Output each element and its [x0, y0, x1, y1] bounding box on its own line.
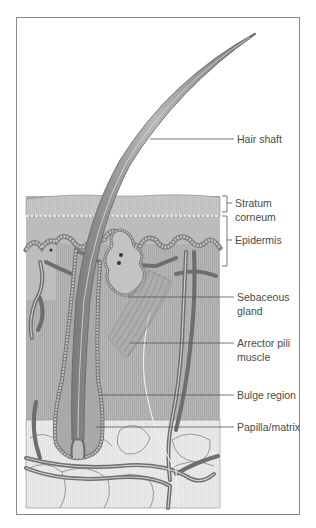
label-epidermis: Epidermis — [235, 234, 282, 246]
gland-nucleus — [117, 261, 121, 265]
label-sebaceous-gland: Sebaceous gland — [237, 291, 292, 317]
gland-nucleus — [119, 253, 123, 257]
bracket-epidermis — [222, 216, 227, 266]
label-bulge-region: Bulge region — [237, 389, 296, 401]
bracket-stratum-corneum — [222, 196, 227, 212]
labels: Hair shaft Stratum corneum Epidermis Seb… — [235, 133, 301, 433]
stratum-corneum-band — [26, 195, 220, 216]
label-arrector-pili-muscle: Arrector pili muscle — [237, 337, 293, 363]
label-stratum-corneum: Stratum corneum — [235, 197, 276, 223]
label-hair-shaft: Hair shaft — [237, 133, 282, 145]
epidermis-nucleus — [49, 248, 52, 251]
label-papilla-matrix: Papilla/matrix — [237, 421, 301, 433]
hair-follicle-diagram: Hair shaft Stratum corneum Epidermis Seb… — [0, 0, 316, 528]
